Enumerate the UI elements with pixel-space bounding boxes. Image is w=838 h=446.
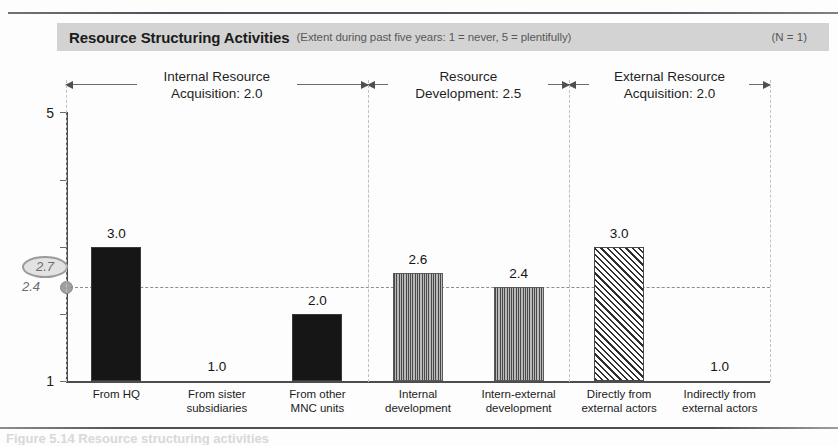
bar-6 [594, 247, 644, 382]
group-label-line1: External Resource [569, 68, 770, 85]
category-label-line1: Intern-external [470, 388, 567, 402]
category-label-line2: development [370, 402, 467, 416]
category-label-line1: From HQ [68, 388, 165, 402]
chart-subtitle: (Extent during past five years: 1 = neve… [297, 31, 572, 43]
sample-size-label: (N = 1) [772, 31, 817, 43]
bar-5 [494, 287, 544, 381]
group-label-line1: Resource [368, 68, 569, 85]
category-label-4: Internaldevelopment [370, 388, 467, 415]
group-label-line1: Internal Resource [66, 68, 368, 85]
group-separator [569, 80, 570, 382]
category-label-line1: From sister [169, 388, 266, 402]
category-label-line1: Internal [370, 388, 467, 402]
y-axis-max-label: 5 [20, 105, 54, 121]
x-axis-line [66, 381, 770, 383]
bottom-rule [0, 427, 838, 429]
category-label-line2: external actors [671, 402, 768, 416]
page-title: Resource Structuring Activities [69, 29, 290, 46]
group-label-line2: Development: 2.5 [368, 85, 569, 102]
bar-3 [292, 314, 342, 381]
bar-value-label-1: 3.0 [86, 226, 146, 241]
group-separator [66, 80, 67, 382]
arrow-left-icon [569, 84, 590, 85]
bar-4 [393, 273, 443, 381]
top-rule [8, 12, 838, 14]
bar-value-label-4: 2.6 [388, 252, 448, 267]
category-label-line2: MNC units [269, 402, 366, 416]
group-header-internal-resource-acquisition: Internal ResourceAcquisition: 2.0 [66, 68, 368, 110]
group-label-line2: Acquisition: 2.0 [66, 85, 368, 102]
y-axis-min-label: 1 [20, 373, 54, 389]
category-label-2: From sistersubsidiaries [169, 388, 266, 415]
category-label-3: From otherMNC units [269, 388, 366, 415]
arrow-left-icon [368, 84, 389, 85]
category-label-line1: From other [269, 388, 366, 402]
category-label-line2: external actors [571, 402, 668, 416]
group-header-external-resource-acquisition: External ResourceAcquisition: 2.0 [569, 68, 770, 110]
arrow-right-icon [297, 84, 368, 85]
reference-value-label: 2.4 [22, 279, 40, 294]
highlight-oval-2-7: 2.7 [22, 256, 68, 278]
category-label-1: From HQ [68, 388, 165, 402]
chart-title-banner: Resource Structuring Activities (Extent … [57, 23, 829, 51]
group-separator [770, 80, 771, 382]
group-separator [368, 80, 369, 382]
figure-caption: Figure 5.14 Resource structuring activit… [6, 431, 269, 445]
bar-value-label-6: 3.0 [589, 226, 649, 241]
category-label-line2: development [470, 402, 567, 416]
bar-value-label-3: 2.0 [287, 293, 347, 308]
arrow-right-icon [548, 84, 569, 85]
bar-1 [91, 247, 141, 382]
category-label-7: Indirectly fromexternal actors [671, 388, 768, 415]
group-label-line2: Acquisition: 2.0 [569, 85, 770, 102]
arrow-right-icon [749, 84, 770, 85]
figure-page: Resource Structuring Activities (Extent … [0, 0, 838, 446]
bar-value-label-5: 2.4 [489, 266, 549, 281]
category-label-5: Intern-externaldevelopment [470, 388, 567, 415]
bar-value-label-7: 1.0 [690, 359, 750, 374]
category-label-line1: Directly from [571, 388, 668, 402]
category-label-line1: Indirectly from [671, 388, 768, 402]
arrow-left-icon [66, 84, 137, 85]
category-label-6: Directly fromexternal actors [571, 388, 668, 415]
bar-value-label-2: 1.0 [187, 359, 247, 374]
category-label-line2: subsidiaries [169, 402, 266, 416]
group-header-resource-development: ResourceDevelopment: 2.5 [368, 68, 569, 110]
